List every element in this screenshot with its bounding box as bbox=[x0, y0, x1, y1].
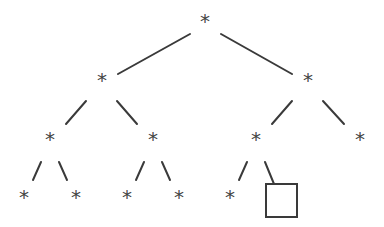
tree-node-asterisk: * bbox=[355, 127, 365, 151]
tree-edge bbox=[59, 162, 67, 180]
tree-node-asterisk: * bbox=[45, 127, 55, 151]
tree-node-asterisk: * bbox=[71, 185, 81, 209]
tree-edge bbox=[221, 34, 292, 74]
tree-node-asterisk: * bbox=[200, 9, 210, 33]
tree-edge bbox=[118, 34, 190, 74]
tree-node-asterisk: * bbox=[148, 127, 158, 151]
tree-diagram: ************ bbox=[0, 0, 384, 227]
tree-edge bbox=[323, 101, 344, 124]
tree-node-asterisk: * bbox=[303, 68, 313, 92]
empty-box-node bbox=[266, 184, 297, 217]
tree-node-asterisk: * bbox=[19, 185, 29, 209]
tree-node-asterisk: * bbox=[174, 185, 184, 209]
tree-edge bbox=[33, 162, 41, 180]
tree-node-asterisk: * bbox=[225, 185, 235, 209]
tree-edge bbox=[136, 162, 144, 180]
tree-edges bbox=[33, 34, 344, 184]
tree-edge bbox=[162, 162, 170, 180]
tree-node-asterisk: * bbox=[251, 127, 261, 151]
tree-edge bbox=[272, 101, 292, 124]
tree-node-asterisk: * bbox=[97, 68, 107, 92]
tree-edge bbox=[239, 162, 247, 180]
tree-edge bbox=[66, 101, 86, 124]
tree-node-asterisk: * bbox=[122, 185, 132, 209]
tree-edge bbox=[117, 101, 137, 124]
tree-edge bbox=[265, 162, 274, 184]
tree-nodes: ************ bbox=[19, 9, 365, 209]
